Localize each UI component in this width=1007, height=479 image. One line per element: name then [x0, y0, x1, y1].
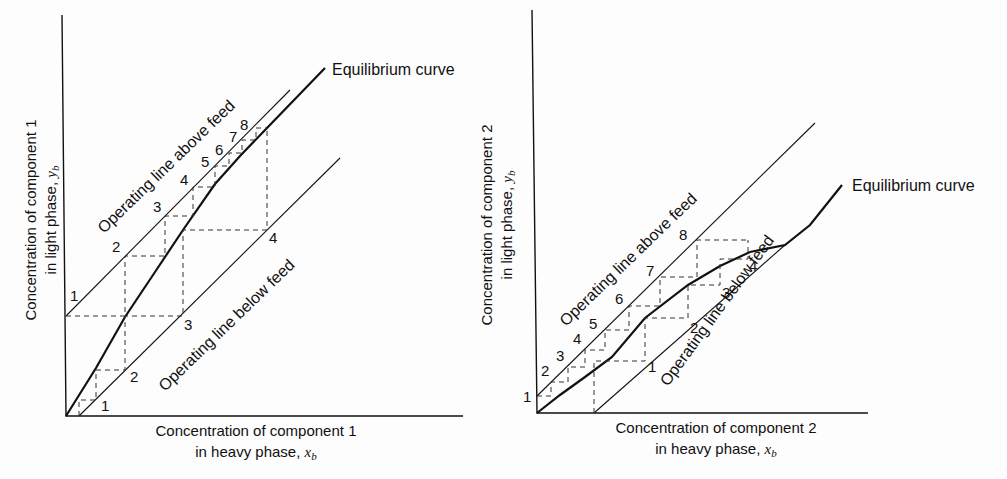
left-operating-line-above-feed — [66, 90, 290, 316]
right-upper-stage-3: 3 — [556, 347, 564, 364]
right-diagram: 1 2 3 4 5 6 7 8 1 2 3 4 Equilibrium curv… — [478, 10, 975, 459]
right-upper-stage-2: 2 — [541, 362, 549, 379]
right-lower-line-label: Operating line below feed — [657, 232, 777, 389]
svg-text:in heavy phase, xb: in heavy phase, xb — [195, 443, 317, 462]
left-upper-stage-8: 8 — [240, 116, 248, 133]
svg-text:Concentration of component 1: Concentration of component 1 — [22, 120, 39, 321]
left-lower-stage-1: 1 — [101, 397, 109, 414]
left-upper-stage-7: 7 — [229, 128, 237, 145]
right-x-axis-label: Concentration of component 2 in heavy ph… — [616, 419, 817, 459]
left-y-axis-label: Concentration of component 1 in light ph… — [22, 120, 61, 321]
left-upper-stage-5: 5 — [201, 153, 209, 170]
right-y-axis-label: Concentration of component 2 in light ph… — [478, 125, 517, 326]
left-diagram: 1 2 3 4 5 6 7 8 1 2 3 4 Equilibrium curv… — [22, 15, 463, 462]
left-lower-line-label: Operating line below feed — [155, 256, 297, 394]
diagram-canvas: 1 2 3 4 5 6 7 8 1 2 3 4 Equilibrium curv… — [0, 0, 1007, 479]
left-lower-stage-4: 4 — [269, 229, 277, 246]
svg-text:in light phase, yb: in light phase, yb — [498, 170, 517, 279]
left-equilibrium-curve-label: Equilibrium curve — [332, 61, 455, 78]
left-upper-stage-2: 2 — [112, 238, 120, 255]
right-axes — [532, 10, 868, 413]
right-equilibrium-curve-label: Equilibrium curve — [852, 177, 975, 194]
svg-text:Concentration of component 2: Concentration of component 2 — [478, 125, 495, 326]
right-upper-stage-8: 8 — [679, 226, 687, 243]
right-upper-stage-7: 7 — [646, 262, 654, 279]
right-upper-stage-4: 4 — [573, 330, 581, 347]
left-lower-stage-2: 2 — [130, 368, 138, 385]
left-upper-stage-3: 3 — [153, 198, 161, 215]
left-operating-line-below-feed — [79, 158, 340, 416]
right-upper-stage-6: 6 — [615, 290, 623, 307]
svg-text:Concentration of component 2: Concentration of component 2 — [616, 419, 817, 436]
left-x-axis-label: Concentration of component 1 in heavy ph… — [156, 422, 357, 462]
right-upper-stage-1: 1 — [523, 388, 531, 405]
right-lower-stage-1: 1 — [648, 358, 656, 375]
right-upper-line-label: Operating line above feed — [556, 190, 700, 330]
svg-text:in heavy phase, xb: in heavy phase, xb — [655, 440, 777, 459]
left-upper-stage-6: 6 — [215, 141, 223, 158]
svg-text:Concentration of component 1: Concentration of component 1 — [156, 422, 357, 439]
svg-text:in light phase, yb: in light phase, yb — [42, 165, 61, 274]
right-upper-stage-5: 5 — [589, 315, 597, 332]
left-upper-stage-4: 4 — [180, 171, 188, 188]
left-lower-stage-3: 3 — [184, 316, 192, 333]
left-upper-stage-1: 1 — [70, 287, 78, 304]
